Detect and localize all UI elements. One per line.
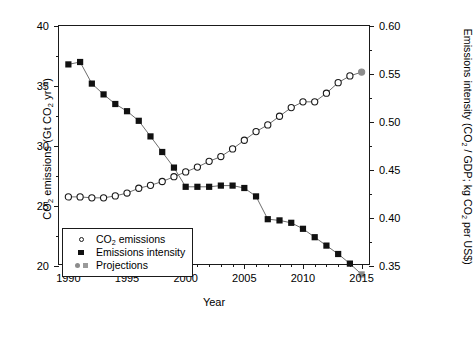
axis-minor-tick — [268, 264, 269, 267]
data-point-co2-emissions — [335, 80, 341, 86]
y-left-tick-label: 25 — [0, 200, 57, 212]
series-line-co2-emissions — [68, 72, 361, 198]
axis-minor-tick — [56, 56, 59, 57]
data-point-co2-emissions — [241, 137, 247, 143]
data-point-emissions-intensity — [312, 234, 318, 240]
chart-legend: CO2 emissions Emissions intensity Projec… — [62, 228, 193, 277]
data-point-co2-emissions — [194, 164, 200, 170]
axis-minor-tick — [56, 176, 59, 177]
y-axis-right-title: Emissions intensity (CO2 / GDP; kg CO2 p… — [460, 12, 474, 282]
axis-minor-tick — [350, 264, 351, 267]
data-point-emissions-intensity — [335, 251, 341, 257]
data-point-emissions-intensity — [276, 217, 282, 223]
legend-label-co2-emissions: CO2 emissions — [94, 233, 165, 247]
data-point-emissions-intensity — [218, 183, 224, 189]
data-point-co2-emissions — [112, 193, 118, 199]
legend-item-co2-emissions: CO2 emissions — [68, 233, 185, 246]
legend-item-emissions-intensity: Emissions intensity — [68, 246, 185, 259]
axis-minor-tick — [209, 264, 210, 267]
data-point-co2-emissions — [183, 169, 189, 175]
data-point-emissions-intensity — [89, 81, 95, 87]
axis-minor-tick — [369, 194, 372, 195]
y-left-tick-label: 35 — [0, 80, 57, 92]
x-tick-label: 2015 — [332, 266, 392, 284]
data-point-emissions-intensity — [253, 193, 259, 199]
axis-minor-tick — [256, 264, 257, 267]
data-point-emissions-intensity — [159, 149, 165, 155]
data-point-emissions-intensity — [147, 133, 153, 139]
data-point-emissions-intensity — [124, 108, 130, 114]
axis-minor-tick — [56, 116, 59, 117]
y-right-tick-label: 0.55 — [371, 68, 439, 80]
data-point-co2-emissions — [77, 194, 83, 200]
data-point-emissions-intensity — [206, 184, 212, 190]
axis-minor-tick — [369, 242, 372, 243]
data-point-emissions-intensity — [288, 220, 294, 226]
x-tick-label: 2005 — [214, 266, 274, 284]
data-point-emissions-intensity — [65, 61, 71, 67]
y-right-tick-label: 0.60 — [371, 20, 439, 32]
filled-square-marker-icon — [68, 250, 94, 256]
data-point-co2-emissions — [159, 178, 165, 184]
data-point-co2-emissions — [206, 158, 212, 164]
axis-minor-tick — [369, 98, 372, 99]
data-point-emissions-intensity — [229, 183, 235, 189]
axis-minor-tick — [369, 50, 372, 51]
legend-label-projections: Projections — [94, 259, 148, 271]
data-point-co2-emissions — [171, 174, 177, 180]
y-right-tick-label: 0.40 — [371, 212, 439, 224]
data-point-emissions-intensity — [112, 101, 118, 107]
data-point-emissions-intensity — [77, 59, 83, 65]
axis-minor-tick — [315, 264, 316, 267]
axis-minor-tick — [280, 264, 281, 267]
y-right-tick-label: 0.45 — [371, 164, 439, 176]
data-point-co2-emissions — [347, 73, 353, 79]
axis-minor-tick — [338, 264, 339, 267]
open-circle-marker-icon — [68, 237, 94, 242]
data-point-co2-emissions — [124, 190, 130, 196]
data-point-emissions-intensity — [265, 216, 271, 222]
data-point-co2-emissions — [276, 113, 282, 119]
axis-minor-tick — [291, 264, 292, 267]
data-point-emissions-intensity — [194, 184, 200, 190]
y-left-tick-label: 30 — [0, 140, 57, 152]
gray-marker-icon — [68, 263, 94, 268]
data-point-emissions-intensity — [323, 243, 329, 249]
data-point-emissions-intensity — [136, 118, 142, 124]
data-point-co2-emissions — [89, 195, 95, 201]
axis-minor-tick — [369, 146, 372, 147]
data-point-co2-emissions — [147, 182, 153, 188]
legend-label-emissions-intensity: Emissions intensity — [94, 246, 185, 258]
data-point-emissions-intensity — [300, 226, 306, 232]
data-point-co2-emissions — [100, 195, 106, 201]
axis-minor-tick — [233, 264, 234, 267]
axis-minor-tick — [56, 236, 59, 237]
data-point-co2-emissions — [253, 129, 259, 135]
data-point-co2-emissions — [300, 99, 306, 105]
data-point-co2-emissions — [265, 122, 271, 128]
axis-minor-tick — [326, 264, 327, 267]
axis-minor-tick — [221, 264, 222, 267]
y-right-tick-label: 0.50 — [371, 116, 439, 128]
axis-minor-tick — [197, 264, 198, 267]
x-tick-label: 2010 — [273, 266, 333, 284]
data-point-projection-co2-emissions — [359, 69, 365, 75]
data-point-co2-emissions — [312, 99, 318, 105]
data-point-co2-emissions — [218, 153, 224, 159]
data-point-co2-emissions — [136, 185, 142, 191]
data-point-co2-emissions — [229, 146, 235, 152]
data-point-emissions-intensity — [241, 185, 247, 191]
legend-item-projections: Projections — [68, 259, 185, 272]
x-axis-title: Year — [58, 296, 370, 308]
data-point-emissions-intensity — [100, 91, 106, 97]
data-point-emissions-intensity — [171, 165, 177, 171]
y-left-tick-label: 40 — [0, 20, 57, 32]
data-point-co2-emissions — [65, 194, 71, 200]
data-point-emissions-intensity — [183, 184, 189, 190]
data-point-co2-emissions — [288, 105, 294, 111]
data-point-co2-emissions — [323, 90, 329, 96]
